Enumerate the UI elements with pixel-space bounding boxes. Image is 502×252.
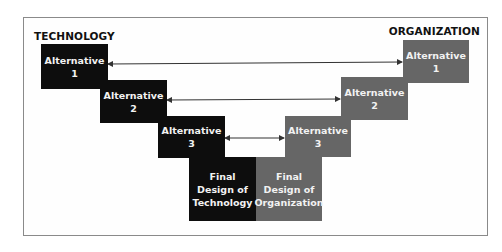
box-number: 1 [71, 67, 78, 80]
technology-alternative-2: Alternative 2 [100, 80, 167, 123]
box-number: 2 [371, 99, 378, 112]
final-design-technology: Final Design of Technology [189, 157, 256, 221]
arrow-alt2 [167, 99, 340, 100]
box-label: Final [276, 170, 302, 183]
technology-alternative-3: Alternative 3 [158, 116, 225, 158]
box-label: Organization [254, 196, 323, 209]
box-number: 3 [315, 137, 322, 150]
box-label: Alternative [45, 54, 105, 67]
final-design-organization: Final Design of Organization [256, 157, 322, 221]
box-label: Design of [264, 183, 315, 196]
box-label: Technology [192, 196, 252, 209]
box-label: Alternative [406, 49, 466, 62]
box-number: 2 [130, 102, 137, 115]
technology-alternative-1: Alternative 1 [41, 44, 108, 89]
box-label: Alternative [104, 89, 164, 102]
box-label: Alternative [162, 124, 222, 137]
box-label: Alternative [288, 124, 348, 137]
box-number: 1 [433, 62, 440, 75]
box-label: Design of [197, 183, 248, 196]
organization-alternative-1: Alternative 1 [403, 40, 469, 83]
organization-alternative-2: Alternative 2 [341, 77, 408, 120]
arrow-alt1 [108, 62, 402, 64]
box-label: Alternative [345, 86, 405, 99]
organization-alternative-3: Alternative 3 [285, 116, 351, 157]
box-number: 3 [188, 137, 195, 150]
box-label: Final [209, 170, 235, 183]
